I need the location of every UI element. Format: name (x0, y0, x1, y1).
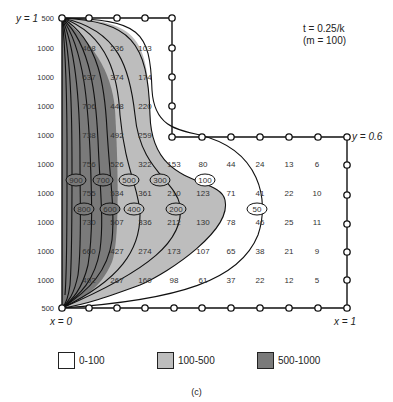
svg-text:78: 78 (227, 218, 236, 227)
label-x-1: x = 1 (333, 316, 356, 327)
time-annotation: t = 0.25/k (303, 23, 345, 34)
svg-text:71: 71 (227, 189, 236, 198)
svg-text:9: 9 (315, 247, 320, 256)
svg-text:468: 468 (82, 44, 96, 53)
svg-text:24: 24 (256, 160, 265, 169)
svg-text:507: 507 (110, 218, 124, 227)
svg-text:267: 267 (110, 276, 124, 285)
svg-text:46: 46 (256, 218, 265, 227)
svg-text:25: 25 (285, 218, 294, 227)
svg-text:1000: 1000 (37, 73, 54, 82)
legend-item-100-500: 100-500 (157, 352, 215, 369)
svg-text:200: 200 (169, 205, 183, 214)
label-y-0-6: y = 0.6 (351, 131, 383, 142)
svg-text:65: 65 (227, 247, 236, 256)
swatch-white (58, 352, 75, 369)
svg-text:21: 21 (285, 247, 294, 256)
svg-text:1000: 1000 (37, 189, 54, 198)
svg-text:130: 130 (196, 218, 210, 227)
svg-text:1000: 1000 (37, 160, 54, 169)
svg-text:300: 300 (153, 176, 167, 185)
svg-text:534: 534 (110, 189, 124, 198)
svg-text:336: 336 (138, 218, 152, 227)
svg-text:98: 98 (170, 276, 179, 285)
svg-text:700: 700 (96, 176, 110, 185)
svg-text:1000: 1000 (37, 131, 54, 140)
svg-text:500: 500 (41, 14, 54, 23)
contour-label-800: 800 (74, 203, 94, 215)
contour-label-400: 400 (124, 203, 144, 215)
svg-text:1000: 1000 (37, 44, 54, 53)
grid-values: 468236103 637374174 706448220 738492259 … (82, 44, 322, 285)
svg-text:274: 274 (138, 247, 152, 256)
svg-text:212: 212 (167, 218, 181, 227)
svg-text:756: 756 (82, 160, 96, 169)
label-y-1: y = 1 (15, 13, 38, 24)
svg-text:236: 236 (110, 44, 124, 53)
contour-label-600: 600 (100, 203, 120, 215)
svg-text:492: 492 (110, 131, 124, 140)
contour-diagram: 500 1000 1000 1000 1000 1000 1000 1000 1… (0, 0, 393, 402)
svg-text:38: 38 (256, 247, 265, 256)
svg-text:160: 160 (138, 276, 152, 285)
svg-text:5: 5 (315, 276, 320, 285)
svg-text:13: 13 (285, 160, 294, 169)
label-x-0: x = 0 (49, 316, 72, 327)
legend-label: 100-500 (178, 355, 215, 366)
svg-text:100: 100 (198, 176, 212, 185)
svg-text:1000: 1000 (37, 247, 54, 256)
svg-text:11: 11 (313, 218, 322, 227)
contour-label-500: 500 (119, 174, 139, 186)
svg-text:50: 50 (253, 205, 262, 214)
contour-label-100: 100 (195, 174, 215, 186)
contour-label-900: 900 (66, 174, 86, 186)
svg-text:361: 361 (138, 189, 152, 198)
svg-text:123: 123 (196, 189, 210, 198)
contour-label-300: 300 (150, 174, 170, 186)
svg-text:600: 600 (103, 205, 117, 214)
legend-label: 500-1000 (278, 355, 320, 366)
svg-text:1000: 1000 (37, 218, 54, 227)
svg-text:22: 22 (285, 189, 294, 198)
svg-text:210: 210 (167, 189, 181, 198)
swatch-light-gray (157, 352, 174, 369)
svg-text:80: 80 (199, 160, 208, 169)
legend-item-500-1000: 500-1000 (257, 352, 320, 369)
svg-text:173: 173 (167, 247, 181, 256)
svg-text:1000: 1000 (37, 276, 54, 285)
param-annotation: (m = 100) (303, 35, 346, 46)
svg-text:400: 400 (127, 205, 141, 214)
svg-text:220: 220 (138, 102, 152, 111)
svg-text:153: 153 (167, 160, 181, 169)
svg-text:12: 12 (285, 276, 294, 285)
contour-label-700: 700 (93, 174, 113, 186)
left-edge-values: 500 1000 1000 1000 1000 1000 1000 1000 1… (37, 14, 54, 313)
svg-text:322: 322 (138, 160, 152, 169)
svg-text:637: 637 (82, 73, 96, 82)
svg-text:107: 107 (196, 247, 210, 256)
svg-text:800: 800 (77, 205, 91, 214)
svg-text:41: 41 (256, 189, 265, 198)
svg-text:660: 660 (82, 247, 96, 256)
svg-text:755: 755 (82, 189, 96, 198)
svg-text:492: 492 (82, 276, 96, 285)
svg-text:22: 22 (256, 276, 265, 285)
svg-text:44: 44 (227, 160, 236, 169)
svg-text:900: 900 (69, 176, 83, 185)
svg-text:500: 500 (41, 304, 54, 313)
svg-text:103: 103 (138, 44, 152, 53)
svg-text:738: 738 (82, 131, 96, 140)
svg-text:448: 448 (110, 102, 124, 111)
legend-item-0-100: 0-100 (58, 352, 105, 369)
svg-text:730: 730 (82, 218, 96, 227)
svg-text:174: 174 (138, 73, 152, 82)
swatch-dark-gray (257, 352, 274, 369)
contour-label-50: 50 (247, 203, 267, 215)
svg-text:10: 10 (313, 189, 322, 198)
svg-text:6: 6 (315, 160, 320, 169)
contour-label-200: 200 (166, 203, 186, 215)
svg-text:526: 526 (110, 160, 124, 169)
svg-text:706: 706 (82, 102, 96, 111)
svg-text:259: 259 (138, 131, 152, 140)
svg-text:37: 37 (227, 276, 236, 285)
